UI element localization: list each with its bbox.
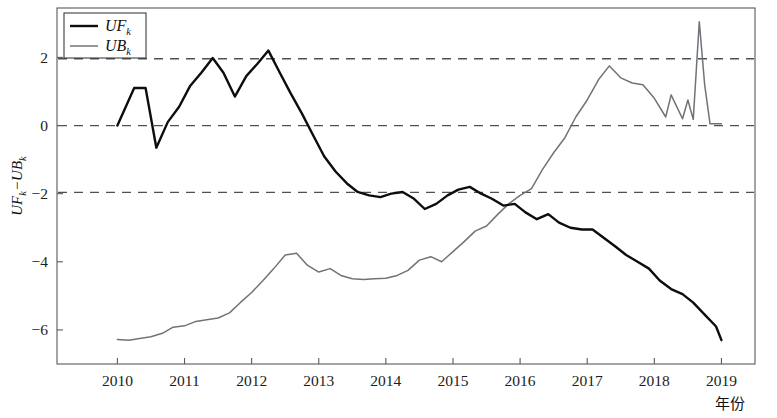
x-tick-label-2012: 2012	[236, 372, 267, 389]
y-tick-label--2: −2	[32, 185, 49, 202]
y-tick-label-2: 2	[40, 49, 48, 66]
svg-text:UFk−UBk: UFk−UBk	[9, 156, 28, 216]
x-tick-label-2010: 2010	[102, 372, 133, 389]
mann-kendall-chart: 2010201120122013201420152016201720182019…	[0, 0, 777, 418]
series-line-ubk	[117, 22, 721, 341]
y-tick-label--6: −6	[32, 321, 49, 338]
y-tick-label--4: −4	[32, 253, 49, 270]
legend: UFk UBk	[64, 13, 146, 58]
x-tick-label-2019: 2019	[706, 372, 737, 389]
x-axis-ticks	[117, 358, 721, 364]
x-tick-label-2016: 2016	[505, 372, 536, 389]
chart-container: 2010201120122013201420152016201720182019…	[0, 0, 777, 418]
y-axis-ticks	[57, 57, 63, 330]
y-tick-label-0: 0	[40, 117, 48, 134]
x-axis-tick-labels: 2010201120122013201420152016201720182019	[102, 372, 737, 389]
x-tick-label-2014: 2014	[370, 372, 401, 389]
significance-gridlines	[58, 59, 754, 193]
x-tick-label-2011: 2011	[169, 372, 199, 389]
plot-frame	[57, 8, 755, 364]
x-tick-label-2015: 2015	[437, 372, 468, 389]
x-tick-label-2013: 2013	[303, 372, 334, 389]
series-line-ufk	[117, 51, 721, 341]
y-axis-tick-labels: 20−2−4−6	[32, 49, 49, 339]
x-axis-title: 年份	[715, 396, 745, 412]
y-axis-title: UFk−UBk	[9, 156, 28, 216]
x-tick-label-2018: 2018	[639, 372, 670, 389]
x-tick-label-2017: 2017	[572, 372, 603, 389]
